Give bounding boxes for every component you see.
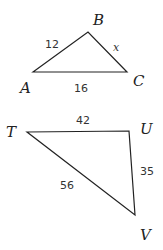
vertex-u-label: U: [140, 120, 154, 138]
side-ac-label: 16: [74, 82, 88, 95]
vertex-a-label: A: [18, 79, 31, 97]
side-bc-label: x: [113, 41, 120, 54]
vertex-b-label: B: [92, 11, 104, 29]
side-ab-label: 12: [45, 38, 59, 51]
triangle-tuv: T U V 42 35 56: [6, 114, 154, 244]
side-uv-label: 35: [140, 165, 154, 178]
vertex-c-label: C: [133, 72, 145, 90]
side-tv-label: 56: [60, 179, 74, 192]
vertex-t-label: T: [6, 123, 17, 141]
triangle-abc: A B C 12 x 16: [18, 11, 145, 97]
triangle-tuv-shape: [27, 131, 135, 215]
vertex-v-label: V: [140, 226, 153, 244]
side-tu-label: 42: [76, 114, 90, 127]
similar-triangles-diagram: A B C 12 x 16 T U V 42 35 56: [0, 0, 163, 250]
